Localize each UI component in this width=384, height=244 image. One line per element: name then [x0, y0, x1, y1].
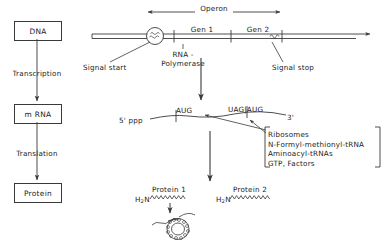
translation-factors-bracket [265, 127, 380, 167]
signal-start-leader [110, 42, 150, 62]
factor-to-codon-arrows [205, 115, 266, 133]
diagram-linework [0, 0, 384, 244]
protein1-chain [150, 196, 185, 199]
gene-boundary-ticks [174, 30, 282, 43]
signal-stop-leader [272, 42, 283, 62]
central-dogma-diagram: DNA Transcription m RNA Translation Prot… [0, 0, 384, 244]
folded-protein-structure [152, 213, 195, 239]
signal-stop-marker [270, 35, 279, 38]
protein2-chain [230, 196, 270, 199]
rna-polymerase-icon [147, 28, 164, 45]
